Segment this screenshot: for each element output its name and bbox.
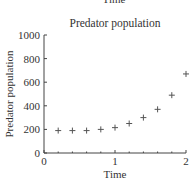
y-tick-label: 600 [24, 76, 41, 88]
plus-marker [155, 106, 161, 112]
plus-marker [69, 128, 75, 134]
y-tick-label: 800 [24, 53, 41, 65]
x-tick-label: 1 [112, 155, 118, 167]
plus-marker [183, 71, 189, 77]
clipped-xlabel-above: Time [103, 0, 126, 5]
y-axis-label: Predator population [3, 50, 15, 138]
x-tick-label: 2 [183, 155, 189, 167]
plus-marker [140, 115, 146, 121]
plus-marker [55, 128, 61, 134]
y-ticks: 02004006008001000 [18, 29, 47, 159]
y-tick-label: 0 [35, 147, 41, 159]
y-tick-label: 200 [24, 123, 41, 135]
y-tick-label: 400 [24, 100, 41, 112]
data-points [55, 71, 189, 134]
plus-marker [98, 126, 104, 132]
y-tick-label: 1000 [18, 29, 41, 41]
plus-marker [112, 125, 118, 131]
predator-population-chart: Time Predator population 020040060080010… [0, 0, 194, 184]
axes: 02004006008001000 012 [18, 29, 189, 167]
x-tick-label: 0 [41, 155, 47, 167]
chart-title: Predator population [69, 17, 160, 30]
x-axis-label: Time [104, 168, 127, 180]
plus-marker [169, 92, 175, 98]
plus-marker [84, 128, 90, 134]
plus-marker [126, 121, 132, 127]
chart-canvas: Time Predator population 020040060080010… [0, 0, 194, 184]
